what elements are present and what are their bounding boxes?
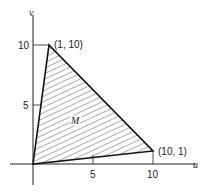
region-label: M [70,115,80,126]
region-diagram: v u 10 5 5 10 (1, 10) (10, 1) M [0,0,207,196]
region-m [0,0,207,196]
u-tick-label-10: 10 [147,169,159,180]
u-tick-label-5: 5 [90,169,96,180]
v-axis-label: v [29,7,34,18]
v-tick-label-5: 5 [23,100,29,111]
u-axis-label: u [193,159,198,170]
v-tick-label-10: 10 [18,40,30,51]
vertex-label-1-10: (1, 10) [54,39,83,50]
vertex-label-10-1: (10, 1) [158,146,187,157]
